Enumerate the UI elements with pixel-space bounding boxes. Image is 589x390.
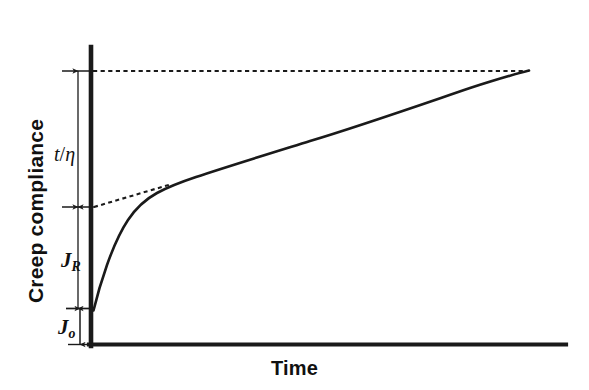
viscous-asymptote-dashed-line	[94, 184, 172, 207]
jr-subscript: R	[72, 259, 81, 274]
creep-compliance-curve	[94, 71, 530, 311]
label-jo: Jo	[58, 315, 75, 342]
plot-area	[0, 0, 589, 390]
jo-subscript: o	[69, 326, 76, 341]
t-over-eta-denominator: η	[65, 143, 75, 165]
axis-lines	[89, 47, 566, 346]
jo-symbol: J	[58, 315, 69, 339]
x-axis-title: Time	[0, 357, 589, 380]
y-axis-title: Creep compliance	[24, 119, 48, 303]
jr-symbol: J	[61, 248, 72, 272]
label-t-over-eta: t/η	[54, 143, 75, 166]
label-jr: JR	[61, 248, 81, 275]
creep-compliance-figure: t/η JR Jo Creep compliance Time	[0, 0, 589, 390]
